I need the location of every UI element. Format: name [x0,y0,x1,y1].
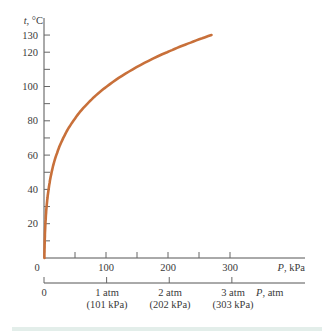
x-axis-title: P, kPa [277,262,306,273]
origin-label: 0 [34,262,39,273]
boiling-curve [44,35,211,258]
atm-label: 0 [41,287,46,298]
atm-sub-label: (202 kPa) [149,299,191,311]
y-tick-label: 100 [22,81,38,92]
x-tick-label: 300 [222,262,238,273]
x-tick-label: 100 [98,262,114,273]
y-axis-title: t, °C [24,15,43,26]
y-tick-label: 130 [22,30,38,41]
x-ticks [75,252,230,258]
y-tick-label: 40 [28,184,39,195]
atm-label: 3 atm [221,287,245,298]
y-tick-label: 20 [28,218,39,229]
y-tick-label: 60 [28,150,39,161]
x-tick-label: 200 [160,262,176,273]
atm-label: 1 atm [95,287,119,298]
atm-label: 2 atm [158,287,182,298]
atm-sub-label: (101 kPa) [86,299,128,311]
x-axis-atm-title: P, atm [255,287,283,298]
y-tick-label: 120 [22,47,38,58]
bottom-divider [12,327,322,331]
atm-sub-label: (303 kPa) [212,299,254,311]
y-tick-label: 80 [28,115,39,126]
chart: 130 120 100 80 60 40 20 t, °C 0 100 200 … [0,0,323,331]
atm-ticks [44,277,232,283]
